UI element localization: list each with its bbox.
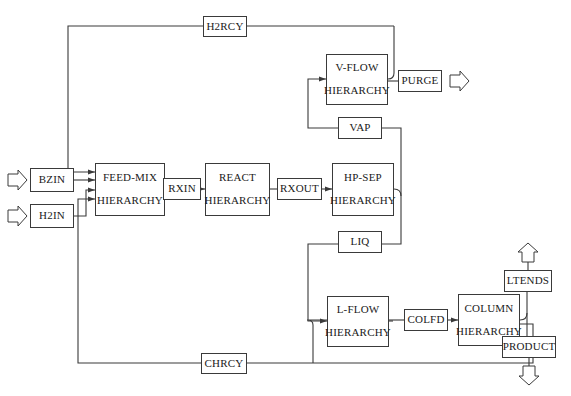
- block-liq[interactable]: LIQ: [338, 231, 382, 253]
- block-label: COLFD: [407, 314, 444, 326]
- block-sublabel: HIERARCHY: [330, 195, 396, 207]
- block-label: VAP: [349, 122, 370, 134]
- block-label: LTENDS: [507, 275, 549, 287]
- block-label: FEED-MIX: [103, 172, 157, 184]
- line-chrcy-to-feedmix: [78, 199, 201, 363]
- block-label: COLUMN: [465, 303, 514, 315]
- block-l-flow[interactable]: L-FLOW HIERARCHY: [327, 296, 389, 347]
- block-sublabel: HIERARCHY: [97, 195, 163, 207]
- block-label: RXOUT: [280, 183, 319, 195]
- block-purge[interactable]: PURGE: [398, 70, 442, 92]
- block-sublabel: HIERARCHY: [325, 327, 391, 339]
- block-label: H2IN: [39, 210, 65, 222]
- block-h2in[interactable]: H2IN: [30, 204, 74, 228]
- line-h2rcy-to-feedmix: [68, 26, 203, 172]
- block-label: H2RCY: [206, 21, 243, 33]
- block-react[interactable]: REACT HIERARCHY: [205, 163, 270, 216]
- block-h2rcy[interactable]: H2RCY: [203, 16, 247, 37]
- block-rxout[interactable]: RXOUT: [277, 178, 322, 200]
- block-bzin[interactable]: BZIN: [30, 168, 74, 192]
- line-column-split: [520, 292, 527, 320]
- line-vflow-h2rcy: [388, 26, 394, 79]
- flowsheet-diagram: BZIN H2IN FEED-MIX HIERARCHY RXIN REACT …: [0, 0, 571, 396]
- block-label: REACT: [219, 172, 256, 184]
- block-colfd[interactable]: COLFD: [404, 309, 448, 331]
- figure-caption: [0, 384, 571, 396]
- block-sublabel: HIERARCHY: [205, 195, 271, 207]
- block-label: LIQ: [351, 236, 370, 248]
- block-label: L-FLOW: [337, 304, 380, 316]
- block-rxin[interactable]: RXIN: [163, 178, 201, 200]
- outlet-arrow-product-icon: [519, 366, 539, 385]
- block-vap[interactable]: VAP: [338, 117, 382, 139]
- block-sublabel: HIERARCHY: [324, 85, 390, 97]
- line-h2in-feedmix: [74, 190, 95, 216]
- block-chrcy[interactable]: CHRCY: [201, 353, 247, 374]
- block-ltends[interactable]: LTENDS: [504, 270, 552, 292]
- block-feed-mix[interactable]: FEED-MIX HIERARCHY: [95, 163, 165, 216]
- inlet-arrow-bzin-icon: [8, 170, 27, 190]
- block-label: HP-SEP: [344, 172, 382, 184]
- outlet-arrow-purge-icon: [450, 71, 469, 91]
- block-label: V-FLOW: [336, 62, 379, 74]
- block-product[interactable]: PRODUCT: [502, 336, 556, 358]
- outlet-arrow-ltends-icon: [518, 243, 538, 262]
- block-label: PRODUCT: [503, 341, 556, 353]
- block-v-flow[interactable]: V-FLOW HIERARCHY: [326, 54, 388, 105]
- block-label: RXIN: [168, 183, 196, 195]
- block-hp-sep[interactable]: HP-SEP HIERARCHY: [332, 163, 394, 216]
- block-label: BZIN: [39, 174, 65, 186]
- inlet-arrow-h2in-icon: [8, 206, 27, 226]
- block-label: CHRCY: [205, 358, 244, 370]
- block-label: PURGE: [401, 75, 438, 87]
